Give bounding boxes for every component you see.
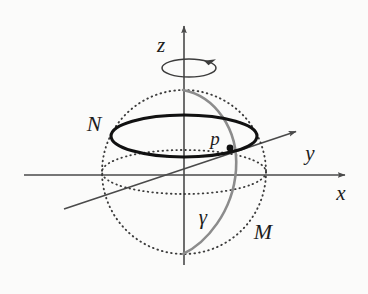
rotation-indicator-group bbox=[162, 59, 216, 77]
point-p-dot bbox=[227, 145, 234, 152]
z-axis-label: z bbox=[156, 33, 165, 57]
point-p-group bbox=[227, 145, 234, 152]
curve-label-gamma: γ bbox=[199, 205, 208, 229]
sphere-diagram-figure: z x y N M p γ bbox=[0, 0, 368, 294]
axes-group bbox=[24, 26, 345, 265]
diagram-canvas: z x y N M p γ bbox=[0, 0, 368, 294]
y-axis-label: y bbox=[303, 141, 315, 165]
x-axis-label: x bbox=[335, 181, 346, 205]
labels-group: z x y N M p γ bbox=[86, 33, 347, 244]
invariant-circle-label-N: N bbox=[86, 111, 103, 136]
manifold-label-M: M bbox=[253, 219, 274, 244]
point-label-p: p bbox=[208, 128, 220, 149]
